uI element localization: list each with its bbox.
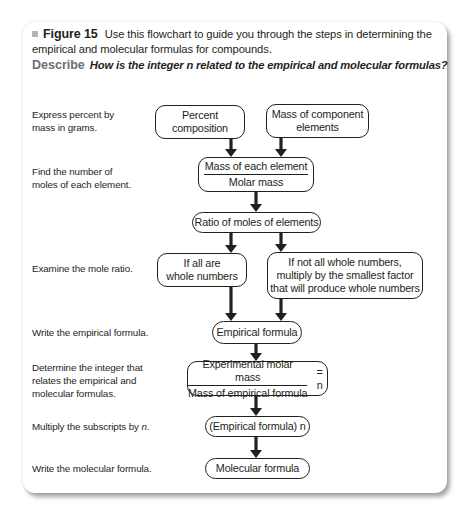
box-text: If all are — [166, 257, 237, 270]
step-label-line: Multiply the subscripts by — [32, 421, 141, 432]
step-label-find-moles: Find the number of moles of each element… — [32, 165, 131, 191]
box-molecular-formula: Molecular formula — [205, 458, 310, 479]
step-label-line: Express percent by — [32, 108, 114, 121]
bullet-square-icon — [32, 31, 38, 37]
box-text: Molecular formula — [216, 462, 299, 475]
box-text: If not all whole numbers, — [270, 256, 420, 269]
box-text: composition — [172, 122, 228, 135]
box-text: whole numbers — [166, 270, 237, 283]
box-whole-numbers: If all are whole numbers — [157, 253, 247, 287]
fraction-denominator: Mass of empirical formula — [188, 386, 307, 400]
figure-label: Figure 15 — [43, 27, 98, 41]
describe-prompt: DescribeHow is the integer n related to … — [32, 58, 452, 72]
box-ratio-of-moles: Ratio of moles of elements — [192, 212, 321, 233]
describe-label: Describe — [32, 58, 85, 72]
step-label-determine-integer: Determine the integer that relates the e… — [32, 361, 143, 400]
box-text: Ratio of moles of elements — [195, 216, 319, 229]
step-label-line: Find the number of — [32, 165, 131, 178]
box-percent-composition: Percent composition — [155, 105, 245, 139]
box-text: Empirical formula — [217, 326, 298, 339]
describe-question: How is the integer n related to the empi… — [90, 59, 448, 71]
box-text: that will produce whole numbers — [270, 282, 420, 295]
fraction: Mass of each element Molar mass — [204, 160, 309, 189]
step-label-line: relates the empirical and — [32, 374, 143, 387]
step-label-express-percent: Express percent by mass in grams. — [32, 108, 114, 134]
fraction-numerator: Mass of each element — [204, 160, 309, 175]
fraction-denominator: Molar mass — [229, 175, 283, 189]
step-label-line: molecular formulas. — [32, 387, 143, 400]
step-label-line: . — [147, 421, 150, 432]
box-text: Percent — [172, 109, 228, 122]
equals-n: = n — [312, 366, 327, 392]
box-text: elements — [272, 121, 364, 134]
step-label-line: Write the molecular formula. — [32, 462, 152, 475]
box-mass-of-components: Mass of component elements — [266, 104, 369, 138]
step-label-line: moles of each element. — [32, 178, 131, 191]
fraction-numerator: Experimental molar mass — [188, 358, 307, 386]
step-label-examine-ratio: Examine the mole ratio. — [32, 262, 133, 275]
step-label-write-empirical: Write the empirical formula. — [32, 326, 148, 339]
box-empirical-formula: Empirical formula — [212, 321, 302, 344]
box-empirical-formula-n: (Empirical formula) n — [205, 416, 310, 437]
step-label-line: mass in grams. — [32, 121, 114, 134]
box-moles-fraction: Mass of each element Molar mass — [198, 157, 314, 192]
step-label-line: Determine the integer that — [32, 361, 143, 374]
box-not-whole-numbers: If not all whole numbers, multiply by th… — [267, 252, 423, 299]
step-label-line: Examine the mole ratio. — [32, 262, 133, 275]
box-text: multiply by the smallest factor — [270, 269, 420, 282]
box-n-fraction: Experimental molar mass Mass of empirica… — [187, 361, 328, 396]
fraction: Experimental molar mass Mass of empirica… — [188, 358, 307, 400]
step-label-line: Write the empirical formula. — [32, 326, 148, 339]
step-label-write-molecular: Write the molecular formula. — [32, 462, 152, 475]
step-label-multiply-subscripts: Multiply the subscripts by n. — [32, 420, 149, 433]
box-text: Mass of component — [272, 108, 364, 121]
figure-caption: Figure 15 Use this flowchart to guide yo… — [32, 27, 432, 57]
box-text: (Empirical formula) n — [209, 420, 305, 433]
